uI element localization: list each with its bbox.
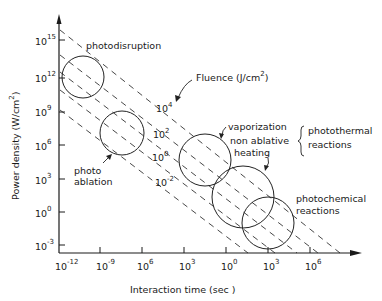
fluence-labels: 104 102 100 10-2 <box>152 101 174 188</box>
fluence-pointer <box>178 80 192 98</box>
x-tick-label: 100 <box>221 258 238 272</box>
x-tick-label: 106 <box>305 258 322 272</box>
y-tick-label: 106 <box>35 138 52 152</box>
region-photochemical <box>242 197 294 249</box>
x-tick-label: 103 <box>179 258 196 272</box>
fluence-label: 104 <box>156 101 173 114</box>
label-photodisruption: photodisruption <box>86 40 161 51</box>
fluence-chart: 1015 1012 109 106 103 100 10-3 10-12 10-… <box>0 0 382 301</box>
y-tick-label: 1012 <box>35 70 56 84</box>
fluence-line-2 <box>60 55 318 253</box>
y-axis-arrow-icon <box>57 14 62 24</box>
x-axis <box>59 250 362 256</box>
label-photothermal-line2: reactions <box>308 139 352 150</box>
photothermal-brace <box>298 126 304 156</box>
label-photo-ablation-line2: ablation <box>74 176 113 187</box>
x-tick-label: 10-12 <box>55 258 79 272</box>
y-ticks <box>59 40 65 245</box>
region-vaporization <box>179 134 231 186</box>
arrowhead-icon <box>264 165 269 171</box>
y-tick-label: 10-3 <box>35 238 54 252</box>
y-axis <box>57 14 62 253</box>
label-photothermal-line1: photothermal <box>308 125 372 136</box>
y-tick-label: 109 <box>35 104 52 118</box>
fluence-label: 102 <box>153 127 170 140</box>
x-tick-labels: 10-12 10-9 106 103 100 103 106 <box>55 258 322 272</box>
x-axis-arrow-icon <box>350 250 362 256</box>
fluence-title: Fluence (J/cm2) <box>196 70 268 83</box>
x-tick-label: 103 <box>263 258 280 272</box>
label-photochemical-line2: reactions <box>296 205 340 216</box>
x-axis-title: Interaction time (sec ) <box>130 284 236 295</box>
x-tick-label: 106 <box>137 258 154 272</box>
y-axis-title: Power density (W/cm2) <box>8 91 21 200</box>
region-photodisruption <box>62 56 104 98</box>
label-vaporization: vaporization <box>228 121 287 132</box>
label-non-ablative-line1: non ablative <box>230 135 289 146</box>
x-tick-label: 10-9 <box>96 258 115 272</box>
x-ticks <box>100 247 310 253</box>
y-tick-label: 100 <box>35 205 52 219</box>
region-photo-ablation <box>100 111 144 155</box>
arrowhead-icon <box>175 95 181 102</box>
fluence-label: 10-2 <box>155 175 174 188</box>
y-tick-label: 1015 <box>35 33 56 47</box>
y-tick-labels: 1015 1012 109 106 103 100 10-3 <box>35 33 56 252</box>
label-photochemical-line1: photochemical <box>296 193 366 204</box>
label-photo-ablation-line1: photo <box>74 165 102 176</box>
label-non-ablative-line2: heating <box>234 147 270 158</box>
y-tick-label: 103 <box>35 172 52 186</box>
fluence-label: 100 <box>152 150 169 163</box>
